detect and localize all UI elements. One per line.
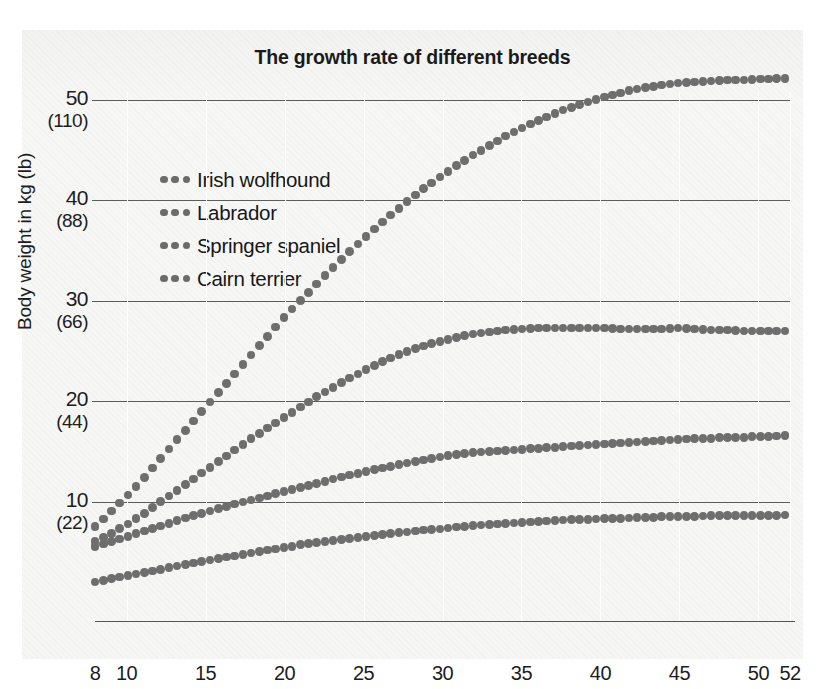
y-tick-kg: 40 [28, 187, 88, 208]
y-axis-tick [92, 401, 112, 402]
x-axis-tick-label: 45 [659, 662, 699, 685]
data-point [395, 528, 404, 537]
data-point [312, 538, 321, 547]
data-point [616, 514, 625, 523]
vgridline-week-52 [790, 92, 791, 622]
data-point [345, 534, 354, 543]
data-point [124, 571, 133, 580]
data-point [386, 529, 395, 538]
data-point [460, 522, 469, 531]
y-axis-tick-label: 20(44) [28, 388, 88, 431]
data-point [625, 86, 634, 95]
data-point [354, 533, 363, 542]
data-point [510, 519, 519, 528]
y-tick-lb: (110) [28, 111, 88, 130]
x-axis-tick-label: 10 [107, 662, 147, 685]
y-tick-lb: (44) [28, 412, 88, 431]
y-axis-tick [92, 200, 112, 201]
data-point [772, 511, 781, 520]
data-point [731, 76, 740, 85]
data-point [699, 512, 708, 521]
data-point [115, 573, 124, 582]
data-point [427, 525, 436, 534]
y-tick-kg: 10 [28, 489, 88, 510]
y-axis-tick-label: 50(110) [28, 87, 88, 130]
data-point [690, 78, 699, 87]
x-axis-tick-label: 52 [770, 662, 810, 685]
data-point [781, 511, 790, 520]
chart-figure: The growth rate of different breeds Body… [22, 30, 803, 659]
data-point [616, 89, 625, 98]
data-point [91, 578, 100, 587]
data-point [657, 81, 666, 90]
y-axis-tick-label: 10(22) [28, 489, 88, 532]
plot-area [95, 100, 790, 622]
data-point [165, 563, 174, 572]
data-point [657, 512, 666, 521]
data-point [239, 550, 248, 559]
data-point [781, 74, 790, 83]
x-axis-tick-label: 25 [344, 662, 384, 685]
data-point [625, 514, 634, 523]
data-point [666, 80, 675, 89]
data-point [666, 512, 675, 521]
series-cairn-terrier [95, 100, 790, 622]
data-point [699, 77, 708, 86]
y-tick-kg: 20 [28, 388, 88, 409]
page-title: The growth rate of different breeds [22, 46, 803, 69]
data-point [362, 532, 371, 541]
data-point [206, 556, 215, 565]
data-point [690, 512, 699, 521]
y-axis-tick [92, 100, 112, 101]
y-tick-lb: (66) [28, 312, 88, 331]
x-axis-tick-label: 40 [580, 662, 620, 685]
y-tick-lb: (88) [28, 211, 88, 230]
data-point [469, 521, 478, 530]
y-tick-kg: 50 [28, 87, 88, 108]
y-tick-kg: 30 [28, 288, 88, 309]
data-point [575, 515, 584, 524]
data-point [584, 515, 593, 524]
y-axis-tick [92, 502, 112, 503]
data-point [436, 525, 445, 534]
data-point [501, 519, 510, 528]
data-point [740, 511, 749, 520]
y-axis-tick-label: 30(66) [28, 288, 88, 331]
x-axis-tick-label: 35 [501, 662, 541, 685]
data-point [551, 516, 560, 525]
x-axis-tick-label: 30 [423, 662, 463, 685]
x-axis-tick-label: 20 [265, 662, 305, 685]
data-point [740, 76, 749, 85]
y-axis-tick [92, 301, 112, 302]
data-point [772, 74, 781, 83]
y-tick-lb: (22) [28, 513, 88, 532]
data-point [542, 517, 551, 526]
data-point [271, 545, 280, 554]
data-point [197, 557, 206, 566]
data-point [280, 543, 289, 552]
x-axis-tick-label: 15 [186, 662, 226, 685]
data-point [321, 537, 330, 546]
data-point [156, 565, 165, 574]
y-axis-tick-label: 40(88) [28, 187, 88, 230]
data-point [731, 511, 740, 520]
data-point [230, 552, 239, 561]
